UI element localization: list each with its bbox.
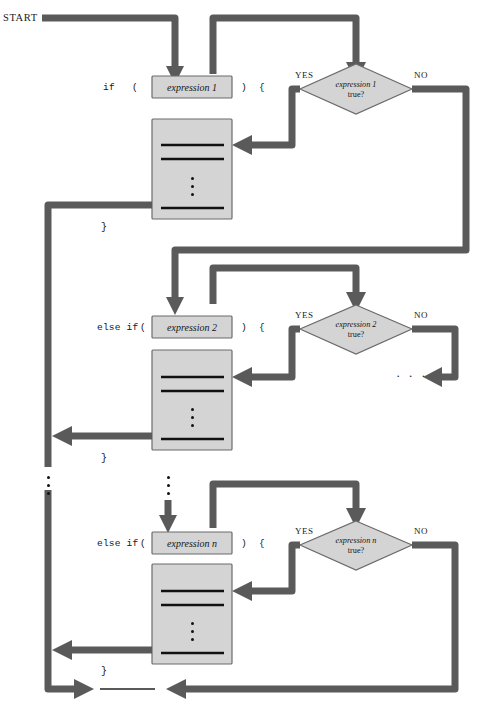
branch-2-yes-label: YES xyxy=(295,310,314,320)
branch-1-open-paren: ( xyxy=(132,82,138,93)
statement-block-n xyxy=(152,564,232,664)
statement-block-1-vertical-ellipsis-icon xyxy=(190,172,194,196)
branch-1-keyword: if xyxy=(103,82,115,93)
branch-n-expression-text: expression n xyxy=(160,538,224,549)
branch-2-no-horizontal-ellipsis-icon: · · · xyxy=(396,368,428,384)
branch-n-close-brace: } xyxy=(101,666,107,677)
edge-statements2-exit xyxy=(52,426,152,446)
branch-chain-vertical-ellipsis-icon xyxy=(166,471,170,495)
branch-2-open-brace: { xyxy=(259,322,265,333)
branch-n-keyword: else if xyxy=(97,538,138,549)
branch-2-open-paren: ( xyxy=(140,322,146,333)
branch-1-condition-text: expression 1 true? xyxy=(316,80,396,99)
branch-2-close-brace: } xyxy=(101,453,107,464)
statement-block-n-vertical-ellipsis-icon xyxy=(190,617,194,641)
branch-1-expression-text: expression 1 xyxy=(160,82,224,93)
branch-1-condition-expression: expression 1 xyxy=(336,80,377,89)
branch-1-yes-label: YES xyxy=(295,70,314,80)
flowchart-canvas: START if ( expression 1 ) { } YES NO exp… xyxy=(0,0,479,713)
branch-n-open-paren: ( xyxy=(140,538,146,549)
statement-block-2 xyxy=(152,350,232,450)
edge-start-to-expression1 xyxy=(42,18,184,84)
branch-2-no-label: NO xyxy=(414,310,428,320)
branch-2-condition-suffix: true? xyxy=(348,330,364,339)
edge-expression2-to-condition2 xyxy=(213,268,366,312)
branch-2-keyword: else if xyxy=(97,322,138,333)
edge-statements1-exit xyxy=(48,205,152,467)
branch-2-condition-expression: expression 2 xyxy=(336,320,377,329)
branch-n-no-label: NO xyxy=(414,526,428,536)
edge-expression-n-to-condition-n xyxy=(213,484,366,528)
edge-statements-n-exit xyxy=(52,640,152,660)
branch-n-open-brace: { xyxy=(259,538,265,549)
statement-block-2-vertical-ellipsis-icon xyxy=(190,403,194,427)
branch-1-condition-suffix: true? xyxy=(348,90,364,99)
flowchart-svg xyxy=(0,0,479,713)
branch-2-expression-text: expression 2 xyxy=(160,322,224,333)
branch-n-condition-suffix: true? xyxy=(348,546,364,555)
branch-1-no-label: NO xyxy=(414,70,428,80)
branch-2-condition-text: expression 2 true? xyxy=(316,320,396,339)
branch-1-close-paren: ) xyxy=(241,82,247,93)
branch-2-close-paren: ) xyxy=(241,322,247,333)
start-label: START xyxy=(3,12,38,23)
branch-n-condition-expression: expression n xyxy=(336,536,377,545)
branch-1-open-brace: { xyxy=(259,82,265,93)
branch-n-condition-text: expression n true? xyxy=(316,536,396,555)
left-rail-vertical-ellipsis-icon xyxy=(46,471,50,495)
edge-condition1-yes-to-statements1 xyxy=(232,89,300,155)
branch-n-close-paren: ) xyxy=(241,538,247,549)
statement-block-1 xyxy=(152,119,232,219)
edge-condition-n-yes-to-statements-n xyxy=(232,545,300,601)
branch-n-yes-label: YES xyxy=(295,526,314,536)
edge-left-rail-to-end xyxy=(48,490,94,699)
edge-ellipsis-to-expression-n xyxy=(159,500,177,533)
branch-1-close-brace: } xyxy=(101,222,107,233)
edge-condition2-yes-to-statements2 xyxy=(232,329,300,387)
